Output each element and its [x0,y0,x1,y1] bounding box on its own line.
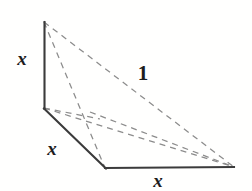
hidden-edge-back-to-right [90,112,234,167]
slant-edge-top-to-right [44,22,234,167]
base-left-label: x [47,139,57,158]
geometry-figure: x x x 1 [0,0,252,191]
base-front-edge [105,167,234,168]
geometry-diagram [0,0,252,191]
height-label: x [17,49,27,68]
slant-label: 1 [138,63,149,84]
hidden-edges-group [44,22,234,168]
base-front-label: x [153,171,163,190]
